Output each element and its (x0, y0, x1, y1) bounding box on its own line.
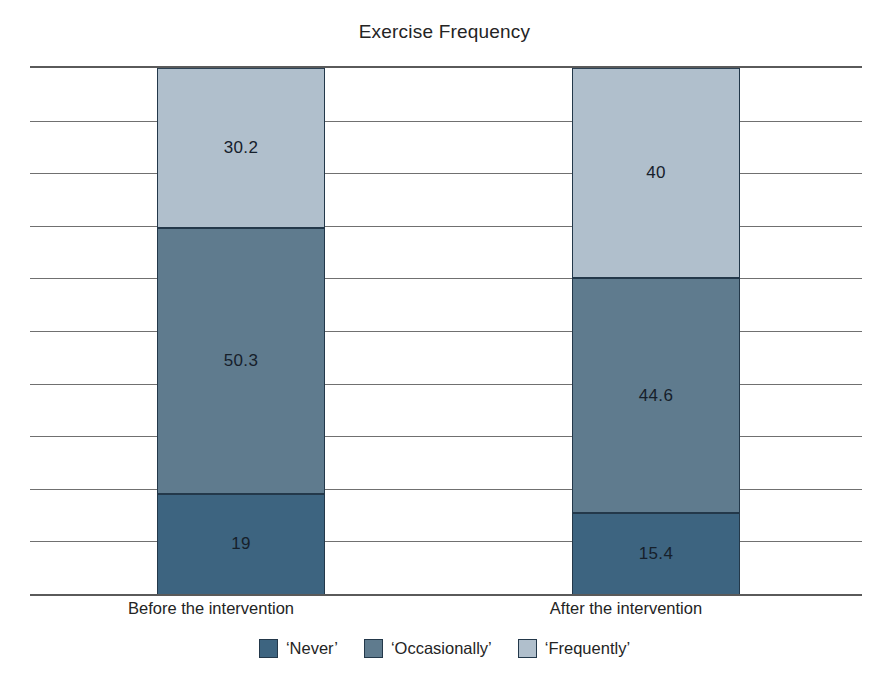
bar-segment-value: 19 (231, 534, 251, 554)
chart-title: Exercise Frequency (0, 21, 889, 43)
legend-swatch-icon (518, 639, 537, 658)
bar-segment-value: 40 (646, 163, 666, 183)
bar-segment-value: 15.4 (639, 544, 673, 564)
bar-segment-never[interactable]: 19 (158, 494, 324, 594)
legend-item-label: ‘Frequently’ (545, 639, 630, 658)
chart-legend: ‘Never’ ‘Occasionally’ ‘Frequently’ (0, 639, 889, 658)
legend-item-label: ‘Occasionally’ (391, 639, 492, 658)
bar-segment-occasionally[interactable]: 44.6 (573, 278, 739, 512)
bar-segment-frequently[interactable]: 40 (573, 68, 739, 278)
stacked-bar-chart: Exercise Frequency 30.2 50.3 19 40 44.6 (0, 0, 889, 697)
legend-item-label: ‘Never’ (286, 639, 338, 658)
legend-item-frequently[interactable]: ‘Frequently’ (518, 639, 630, 658)
bar-segment-value: 50.3 (224, 351, 258, 371)
bar-before-the-intervention[interactable]: 30.2 50.3 19 (157, 68, 325, 594)
legend-swatch-icon (259, 639, 278, 658)
legend-item-occasionally[interactable]: ‘Occasionally’ (364, 639, 492, 658)
bar-segment-value: 30.2 (224, 138, 258, 158)
bar-segment-occasionally[interactable]: 50.3 (158, 228, 324, 493)
plot-area: 30.2 50.3 19 40 44.6 15.4 (30, 66, 862, 596)
bar-segment-frequently[interactable]: 30.2 (158, 68, 324, 228)
bar-after-the-intervention[interactable]: 40 44.6 15.4 (572, 68, 740, 594)
bar-segment-value: 44.6 (639, 386, 673, 406)
category-label-before: Before the intervention (61, 599, 361, 618)
bar-segment-never[interactable]: 15.4 (573, 513, 739, 594)
legend-item-never[interactable]: ‘Never’ (259, 639, 338, 658)
legend-swatch-icon (364, 639, 383, 658)
category-label-after: After the intervention (476, 599, 776, 618)
